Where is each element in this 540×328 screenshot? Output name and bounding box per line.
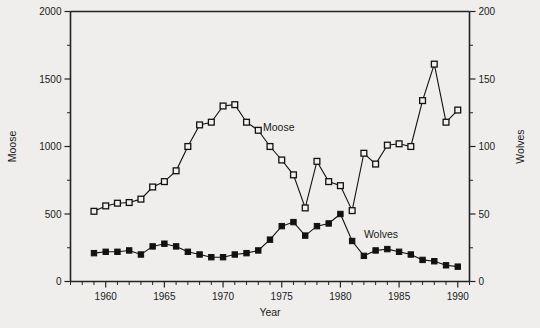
x-tick-label: 1960 [95,291,118,302]
data-point [326,221,331,226]
data-point [396,249,401,254]
data-point [220,103,226,109]
data-point [373,161,379,167]
data-point [373,248,378,253]
y-tick-label: 500 [45,209,62,220]
data-point [138,196,144,202]
data-point [349,208,355,214]
data-point [455,107,461,113]
data-point [244,250,249,255]
data-point [91,250,96,255]
data-point [408,144,414,150]
data-point [302,205,308,211]
data-point [162,241,167,246]
data-point [126,248,131,253]
x-tick-label: 1980 [329,291,352,302]
y2-tick-label: 100 [479,141,496,152]
y-tick-label: 1000 [39,141,62,152]
data-point [443,263,448,268]
data-point [244,119,250,125]
data-point [220,255,225,260]
data-point [384,142,390,148]
y-tick-label: 2000 [39,6,62,17]
data-point [138,252,143,257]
data-point [197,252,202,257]
data-point [455,264,460,269]
data-point [256,248,261,253]
x-tick-label: 1970 [212,291,235,302]
series-annotation-moose: Moose [263,121,295,133]
series-annotation-wolves: Wolves [364,228,398,240]
y2-tick-label: 200 [479,6,496,17]
data-point [279,223,284,228]
y2-tick-label: 150 [479,74,496,85]
moose-wolves-population-chart: 0500100015002000050100150200196019651970… [0,0,540,328]
data-point [267,237,272,242]
data-point [338,183,344,189]
data-point [232,252,237,257]
data-point [361,253,366,258]
data-point [255,127,261,133]
data-point [91,208,97,214]
data-point [291,172,297,178]
data-point [431,61,437,67]
data-point [443,119,449,125]
data-point [161,179,167,185]
data-point [396,141,402,147]
data-point [267,144,273,150]
data-point [103,249,108,254]
data-point [291,219,296,224]
y-axis-title: Moose [6,131,18,163]
y-tick-label: 0 [56,276,62,287]
data-point [103,203,109,209]
data-point [326,179,332,185]
data-point [420,98,426,104]
data-point [303,233,308,238]
data-point [208,119,214,125]
data-point [150,184,156,190]
data-point [420,257,425,262]
data-point [150,244,155,249]
data-point [173,168,179,174]
x-tick-label: 1975 [271,291,294,302]
data-point [185,144,191,150]
x-axis-title: Year [259,306,281,318]
data-point [432,259,437,264]
data-point [173,244,178,249]
data-point [115,200,121,206]
x-tick-label: 1990 [447,291,470,302]
data-point [314,223,319,228]
data-point [232,102,238,108]
data-point [209,255,214,260]
y2-tick-label: 50 [479,209,491,220]
data-point [361,150,367,156]
x-tick-label: 1985 [388,291,411,302]
y2-axis-title: Wolves [514,129,526,163]
data-point [338,211,343,216]
data-point [314,158,320,164]
data-point [349,238,354,243]
data-point [197,122,203,128]
x-tick-label: 1965 [153,291,176,302]
y2-tick-label: 0 [479,276,485,287]
y-tick-label: 1500 [39,74,62,85]
data-point [408,252,413,257]
data-point [126,200,132,206]
data-point [279,157,285,163]
data-point [185,249,190,254]
data-point [115,249,120,254]
data-point [385,246,390,251]
figure-background [0,0,540,328]
